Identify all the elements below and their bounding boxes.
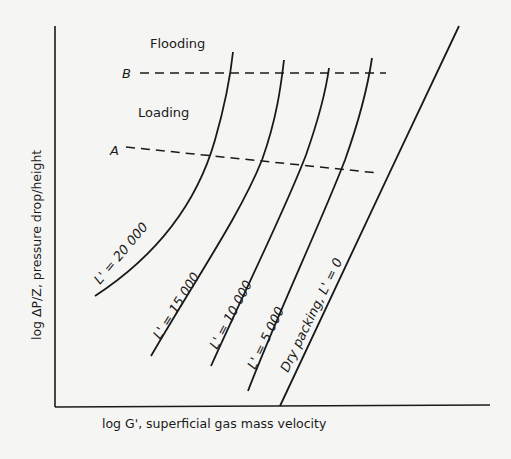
diagram-canvas: Flooding Loading B A L' = 20 000 L' = 15…: [0, 0, 511, 459]
y-axis-label: log ΔP/Z, pressure drop/height: [29, 150, 44, 340]
line-b-label: B: [122, 66, 131, 81]
label-l-15000: L' = 15 000: [150, 270, 203, 342]
flooding-label: Flooding: [150, 36, 205, 51]
curve-dry-packing: [280, 26, 459, 406]
loading-label: Loading: [138, 105, 189, 120]
loading-line-a: [126, 147, 378, 173]
label-dry-packing: Dry packing, L' = 0: [277, 256, 345, 375]
line-a-label: A: [109, 143, 119, 158]
x-axis: [55, 405, 490, 407]
x-axis-label: log G', superficial gas mass velocity: [102, 416, 327, 431]
label-l-10000: L' = 10 000: [206, 278, 255, 352]
pressure-drop-diagram: Flooding Loading B A L' = 20 000 L' = 15…: [0, 0, 511, 459]
